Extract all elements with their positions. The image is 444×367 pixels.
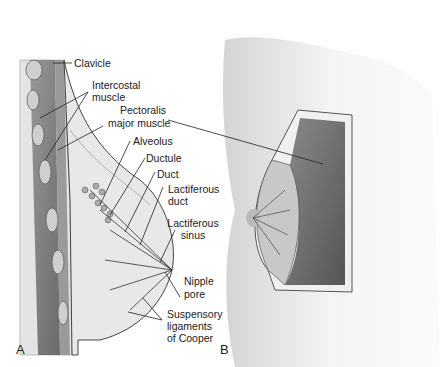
label-suspensory-line3: of Cooper — [167, 333, 213, 344]
label-suspensory-line1: Suspensory — [167, 309, 222, 320]
label-nipple-pore-line1: Nipple — [184, 276, 214, 287]
anatomy-figure: Clavicle Intercostal muscle Pectoralis m… — [0, 0, 444, 367]
label-pectoralis-line1: Pectoralis — [108, 105, 178, 116]
label-suspensory-line2: ligaments — [167, 321, 212, 332]
label-ductule: Ductule — [146, 153, 182, 164]
label-lactiferous-duct-line1: Lactiferous — [168, 184, 219, 195]
label-lactiferous-duct-line2: duct — [168, 196, 188, 207]
label-lactiferous-sinus-line1: Lactiferous — [163, 218, 223, 229]
label-pectoralis-line2: major muscle — [108, 118, 170, 129]
label-clavicle: Clavicle — [74, 58, 111, 69]
label-lactiferous-sinus-line2: sinus — [163, 230, 223, 241]
panel-label-b: B — [220, 342, 229, 357]
label-intercostal-line1: Intercostal — [92, 80, 140, 91]
label-duct: Duct — [157, 169, 179, 180]
panel-label-a: A — [16, 342, 25, 357]
label-alveolus: Alveolus — [133, 136, 173, 147]
label-nipple-pore-line2: pore — [184, 289, 205, 300]
label-intercostal-line2: muscle — [92, 92, 125, 103]
panel-b-drawing — [223, 37, 440, 367]
